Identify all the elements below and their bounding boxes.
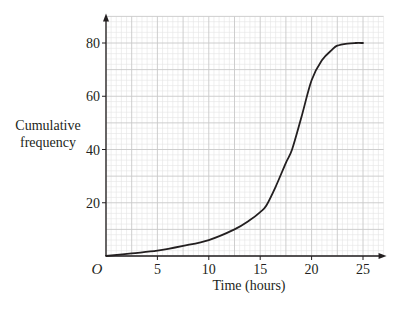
y-tick-label: 20 [86, 196, 100, 211]
x-tick-label: 15 [253, 262, 267, 277]
x-tick-label: 5 [154, 262, 161, 277]
tick-labels: 51015202520406080 [86, 36, 370, 277]
chart-canvas: 51015202520406080 O Time (hours) Cumulat… [0, 0, 407, 310]
axis-ticks [102, 43, 363, 260]
y-axis-arrow-icon [103, 13, 109, 21]
x-axis-arrow-icon [379, 253, 387, 259]
origin-label: O [92, 261, 103, 277]
x-axis-label: Time (hours) [213, 278, 286, 294]
y-tick-label: 80 [86, 36, 100, 51]
x-tick-label: 20 [305, 262, 319, 277]
grid-minor-lines [106, 16, 384, 256]
x-tick-label: 25 [356, 262, 370, 277]
y-axis-label-line-2: frequency [20, 135, 76, 150]
y-tick-label: 40 [86, 143, 100, 158]
y-tick-label: 60 [86, 89, 100, 104]
y-axis-label-line-1: Cumulative [15, 118, 80, 133]
x-tick-label: 10 [202, 262, 216, 277]
cumulative-frequency-chart: 51015202520406080 O Time (hours) Cumulat… [0, 0, 407, 310]
